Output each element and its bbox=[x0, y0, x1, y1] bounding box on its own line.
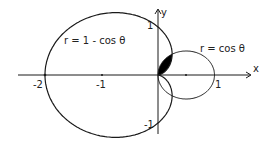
tick-label-1: 1 bbox=[215, 79, 221, 90]
circle-label: r = cos θ bbox=[200, 43, 245, 54]
y-axis-label: y bbox=[161, 7, 167, 18]
tick-label-yneg1: -1 bbox=[144, 119, 154, 130]
x-axis-label: x bbox=[253, 63, 259, 74]
tick-label-neg1: -1 bbox=[96, 79, 106, 90]
tick-label-neg2: -2 bbox=[33, 79, 43, 90]
circle-center bbox=[185, 74, 187, 76]
polar-diagram: x y -2 -1 1 1 -1 r = 1 - cos θ r = cos θ bbox=[0, 0, 268, 148]
tick-neg1 bbox=[101, 74, 103, 76]
cardioid-label: r = 1 - cos θ bbox=[64, 35, 125, 46]
